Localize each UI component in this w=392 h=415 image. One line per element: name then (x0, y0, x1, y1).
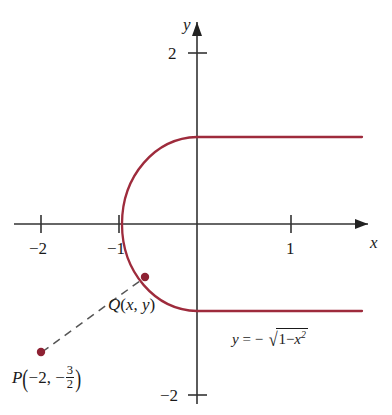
y-tick-label--2: −2 (160, 387, 178, 404)
point-P-name: P (12, 368, 22, 387)
x-tick-label-1: 1 (286, 240, 295, 257)
x-tick-label--1: −1 (107, 240, 125, 257)
equation-equals: = (242, 331, 250, 347)
point-P-label: P(−2, −32) (12, 364, 81, 392)
point-P-y-sign: − (55, 368, 65, 387)
figure-container: y x 2 −2 −2 −1 1 Q(x, y) P(−2, −32) y = … (0, 0, 392, 415)
radical-sign-icon: √ (269, 330, 278, 349)
point-P-marker (37, 348, 45, 356)
point-P-open-paren: ( (23, 367, 29, 392)
point-P-x: −2 (29, 368, 47, 387)
curve-equation-label: y = − √1−x2 (232, 328, 308, 350)
point-Q-y: y (142, 295, 150, 314)
point-Q-marker (141, 273, 149, 281)
equation-radical: √1−x2 (267, 328, 308, 350)
point-Q-label: Q(x, y) (108, 296, 155, 313)
point-Q-name: Q (108, 295, 120, 314)
y-tick-label-2: 2 (168, 45, 177, 62)
point-Q-x: x (126, 295, 134, 314)
curve-lower-branch (122, 224, 362, 311)
x-tick-label--2: −2 (29, 240, 47, 257)
point-P-comma: , (47, 368, 51, 387)
secant-line-PQ (42, 278, 144, 352)
equation-lhs: y (232, 331, 239, 347)
radicand-exponent: 2 (301, 329, 306, 340)
equation-leading-minus: − (255, 331, 263, 347)
point-P-y-denominator: 2 (66, 377, 74, 391)
y-axis-label: y (183, 16, 191, 33)
point-Q-close-paren: ) (150, 295, 156, 314)
plot-canvas (0, 0, 392, 415)
radicand-one: 1 (278, 331, 286, 347)
x-axis-arrowhead (355, 219, 368, 229)
point-P-y-numerator: 3 (66, 364, 74, 377)
point-P-y-fraction: 32 (66, 364, 74, 391)
curve-upper-branch (122, 137, 362, 224)
radical-radicand: 1−x2 (276, 328, 308, 347)
x-axis-label: x (370, 234, 378, 251)
point-P-close-paren: ) (75, 367, 81, 392)
point-Q-comma: , (134, 295, 138, 314)
y-axis-arrowhead (192, 22, 202, 36)
